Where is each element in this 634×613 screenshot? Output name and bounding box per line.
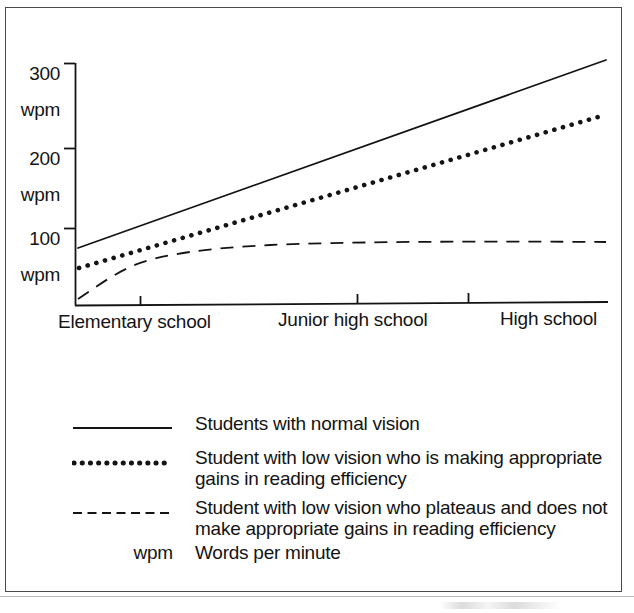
legend-swatch-solid-line	[72, 421, 173, 435]
y-axis-label-100: 100 wpm	[20, 212, 60, 302]
x-axis-label-high-school: High school	[500, 308, 597, 330]
x-axis-label-elementary-school: Elementary school	[58, 311, 211, 333]
legend-swatch-dashed-line	[72, 506, 173, 520]
series-line-appropriate-gains	[79, 115, 605, 268]
legend-swatch-dotted-line	[72, 456, 173, 470]
x-axis-line	[75, 302, 608, 306]
series-line-normal-vision	[78, 60, 606, 248]
legend-label-plateau: Student with low vision who plateaus and…	[195, 497, 615, 539]
figure-chart-reading-efficiency: 300 wpm 200 wpm 100 wpm Elementary schoo…	[0, 0, 634, 613]
scan-artifact-smudge	[440, 602, 560, 609]
scan-artifact-line	[0, 596, 634, 597]
legend-label-normal-vision: Students with normal vision	[195, 413, 615, 434]
legend-key-wpm: wpm	[72, 542, 173, 564]
x-axis-label-junior-high-school: Junior high school	[278, 309, 428, 331]
plot-area	[0, 0, 634, 400]
y-axis-label-300: 300 wpm	[20, 47, 60, 137]
series-line-plateau	[78, 242, 606, 299]
legend-label-wpm: Words per minute	[195, 542, 615, 563]
y-axis-label-200: 200 wpm	[20, 132, 60, 222]
legend-label-appropriate-gains: Student with low vision who is making ap…	[195, 447, 615, 489]
